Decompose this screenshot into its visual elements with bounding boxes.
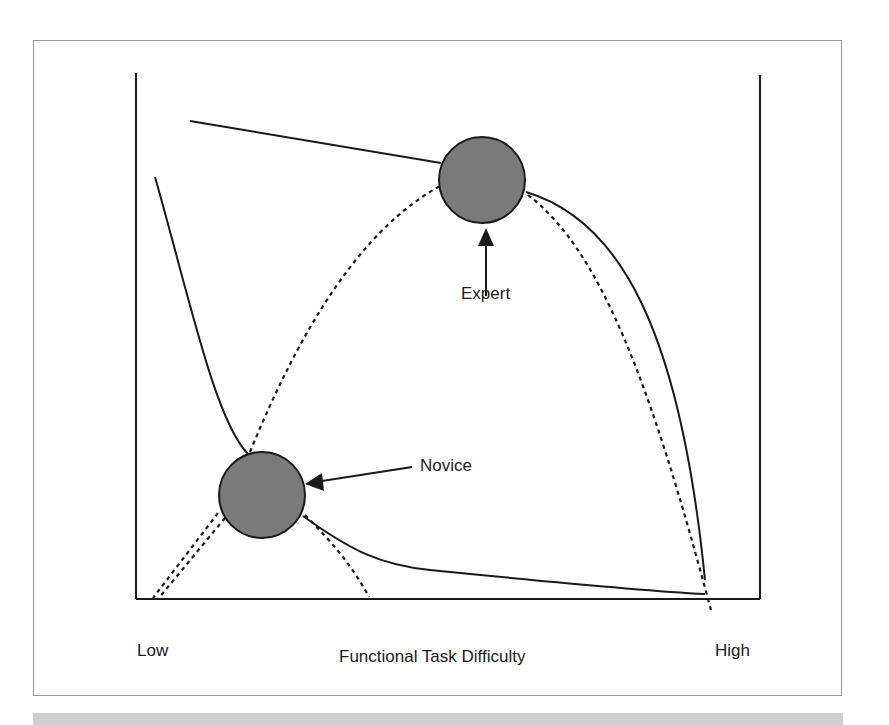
novice-right-solid-curve bbox=[303, 516, 705, 594]
diagram-canvas bbox=[0, 0, 889, 725]
expert-right-solid-curve bbox=[526, 192, 705, 580]
novice-left-solid-curve bbox=[155, 177, 248, 454]
novice-arrowhead-icon bbox=[305, 473, 324, 491]
expert-label: Expert bbox=[461, 284, 510, 304]
x-axis-high-label: High bbox=[715, 641, 750, 661]
novice-arrow-shaft bbox=[322, 467, 412, 481]
novice-circle bbox=[219, 452, 305, 538]
novice-left-dashed-curve-1 bbox=[153, 513, 218, 598]
novice-left-dashed-curve-2 bbox=[158, 518, 225, 599]
x-axis-low-label: Low bbox=[137, 641, 168, 661]
expert-left-dashed-curve bbox=[250, 186, 440, 452]
novice-right-dashed-curve bbox=[305, 515, 369, 597]
novice-label: Novice bbox=[420, 456, 472, 476]
x-axis-title: Functional Task Difficulty bbox=[339, 647, 525, 667]
expert-arrowhead-icon bbox=[478, 228, 494, 246]
expert-circle bbox=[439, 137, 525, 223]
expert-left-solid-curve bbox=[190, 121, 441, 163]
expert-right-dashed-curve bbox=[528, 195, 712, 614]
